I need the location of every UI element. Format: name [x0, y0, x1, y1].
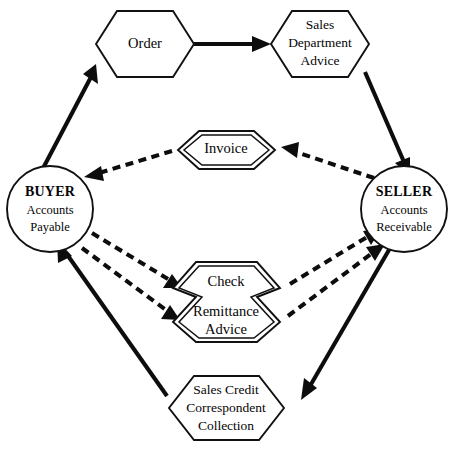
edge-layer: [40, 36, 410, 400]
node-seller[interactable]: SELLER Accounts Receivable: [361, 166, 447, 252]
node-sales-advice-line2: Department: [288, 35, 352, 50]
edge-sales-credit-to-buyer: [57, 240, 167, 396]
node-remittance-advice-label: Advice: [205, 321, 247, 337]
node-remittance-label: Remittance: [193, 303, 259, 319]
node-seller-title: SELLER: [376, 184, 433, 199]
edge-buyer-to-order: [40, 64, 98, 174]
edge-seller-to-invoice: [281, 142, 374, 178]
edge-order-to-sales-advice: [194, 36, 271, 52]
edge-sales-advice-to-seller: [365, 72, 410, 176]
node-buyer-line3: Payable: [30, 220, 70, 234]
node-sales-credit[interactable]: Sales Credit Correspondent Collection: [169, 376, 284, 440]
node-check-label: Check: [207, 273, 245, 289]
node-sales-credit-line3: Collection: [198, 418, 254, 433]
edge-buyer-to-check: [92, 233, 182, 288]
process-flow-diagram: Order Sales Department Advice Invoice Ch…: [0, 0, 454, 458]
node-seller-line2: Accounts: [380, 203, 427, 217]
node-sales-department-advice[interactable]: Sales Department Advice: [271, 11, 369, 77]
node-sales-credit-line2: Correspondent: [186, 400, 266, 415]
node-check-remittance[interactable]: Check Remittance Advice: [173, 262, 280, 342]
node-sales-advice-line1: Sales: [306, 17, 335, 32]
node-seller-line3: Receivable: [376, 220, 432, 234]
node-invoice-label: Invoice: [204, 140, 247, 156]
node-order[interactable]: Order: [96, 11, 194, 77]
node-buyer[interactable]: BUYER Accounts Payable: [7, 166, 93, 252]
node-sales-credit-line1: Sales Credit: [193, 382, 259, 397]
node-buyer-line2: Accounts: [26, 203, 73, 217]
edge-invoice-to-buyer: [84, 151, 172, 181]
node-sales-advice-line3: Advice: [301, 53, 340, 68]
node-invoice[interactable]: Invoice: [178, 131, 275, 169]
node-order-label: Order: [128, 35, 162, 51]
node-buyer-title: BUYER: [25, 184, 76, 199]
